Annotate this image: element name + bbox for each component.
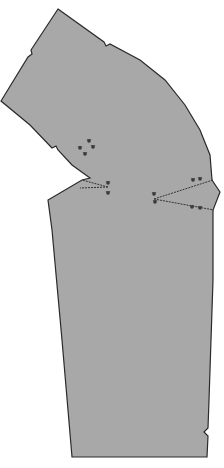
sleeve-pattern-piece	[1, 9, 220, 457]
pattern-canvas	[0, 0, 224, 468]
pattern-outline	[1, 9, 220, 457]
